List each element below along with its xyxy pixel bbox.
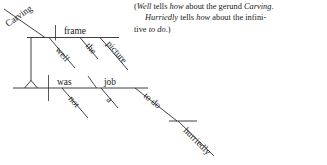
predicate-nominative-divider — [88, 76, 97, 88]
gloss-gerund-carving: Carving — [244, 2, 271, 11]
gloss-text-1b: about the gerund — [184, 2, 244, 11]
gloss-text-1a: tells — [151, 2, 169, 11]
label-job: job — [103, 77, 116, 87]
label-hurriedly: hurriedly — [182, 125, 214, 157]
label-frame: frame — [64, 26, 86, 36]
gloss-word-well: Well — [137, 2, 152, 11]
label-carving: Carving — [3, 3, 34, 29]
gloss-how-2: how — [196, 13, 210, 22]
gloss-text-2b: about the infini- — [210, 13, 266, 22]
gloss-infinitive-to-do: to do — [149, 25, 166, 34]
gloss-how-1: how — [170, 2, 184, 11]
gloss-close-paren: .) — [166, 25, 171, 34]
sentence-diagram-figure: Carving frame well the picture was not j… — [0, 0, 327, 165]
gloss-word-hurriedly: Hurriedly — [145, 13, 178, 22]
gerund-pedestal-tripod — [25, 81, 38, 89]
gloss-text-3a: tive — [134, 25, 149, 34]
gloss-text-2a: tells — [178, 13, 196, 22]
gloss-text-1c: . — [271, 2, 273, 11]
label-picture: picture — [104, 39, 129, 65]
label-was: was — [57, 77, 72, 87]
explanatory-gloss: (Well tells how about the gerund Carving… — [134, 1, 324, 35]
label-the: the — [83, 41, 98, 56]
